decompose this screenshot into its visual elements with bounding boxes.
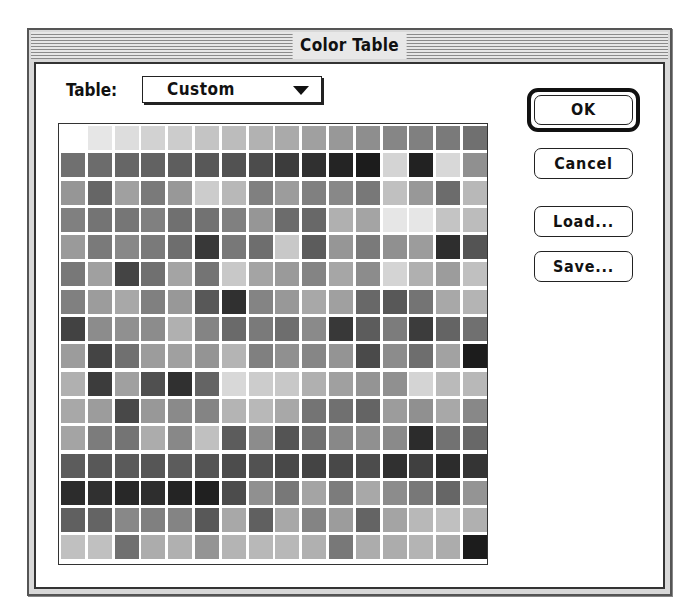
color-swatch[interactable]: [168, 372, 192, 396]
color-swatch[interactable]: [88, 481, 112, 505]
color-swatch[interactable]: [383, 454, 407, 478]
color-swatch[interactable]: [61, 372, 85, 396]
color-swatch[interactable]: [383, 153, 407, 177]
color-swatch[interactable]: [302, 208, 326, 232]
color-swatch[interactable]: [61, 399, 85, 423]
color-swatch[interactable]: [222, 399, 246, 423]
color-swatch[interactable]: [275, 153, 299, 177]
color-swatch[interactable]: [436, 481, 460, 505]
color-swatch[interactable]: [61, 317, 85, 341]
color-swatch[interactable]: [329, 372, 353, 396]
color-swatch[interactable]: [88, 153, 112, 177]
color-swatch[interactable]: [88, 235, 112, 259]
color-swatch[interactable]: [249, 126, 273, 150]
color-swatch[interactable]: [463, 317, 487, 341]
color-swatch[interactable]: [329, 426, 353, 450]
color-swatch[interactable]: [356, 126, 380, 150]
color-swatch[interactable]: [141, 126, 165, 150]
color-swatch[interactable]: [115, 208, 139, 232]
color-swatch[interactable]: [88, 262, 112, 286]
color-swatch[interactable]: [222, 454, 246, 478]
color-swatch[interactable]: [168, 508, 192, 532]
color-swatch[interactable]: [436, 208, 460, 232]
color-swatch[interactable]: [61, 181, 85, 205]
color-swatch[interactable]: [409, 126, 433, 150]
color-swatch[interactable]: [436, 508, 460, 532]
color-swatch[interactable]: [141, 344, 165, 368]
color-swatch[interactable]: [409, 262, 433, 286]
color-swatch[interactable]: [383, 399, 407, 423]
color-swatch[interactable]: [168, 399, 192, 423]
color-swatch[interactable]: [356, 317, 380, 341]
color-swatch[interactable]: [275, 262, 299, 286]
color-swatch[interactable]: [195, 344, 219, 368]
color-swatch[interactable]: [168, 126, 192, 150]
color-swatch[interactable]: [329, 399, 353, 423]
color-swatch[interactable]: [383, 290, 407, 314]
color-swatch[interactable]: [141, 481, 165, 505]
color-swatch[interactable]: [383, 426, 407, 450]
color-swatch[interactable]: [141, 426, 165, 450]
color-swatch[interactable]: [168, 344, 192, 368]
color-swatch[interactable]: [195, 181, 219, 205]
color-swatch[interactable]: [61, 235, 85, 259]
color-swatch[interactable]: [115, 290, 139, 314]
color-swatch[interactable]: [61, 126, 85, 150]
color-swatch[interactable]: [195, 481, 219, 505]
color-swatch[interactable]: [409, 508, 433, 532]
color-swatch[interactable]: [409, 481, 433, 505]
color-swatch[interactable]: [329, 208, 353, 232]
color-swatch[interactable]: [222, 426, 246, 450]
color-swatch[interactable]: [383, 535, 407, 559]
color-swatch[interactable]: [168, 454, 192, 478]
color-swatch[interactable]: [329, 126, 353, 150]
color-swatch[interactable]: [115, 344, 139, 368]
color-swatch[interactable]: [275, 126, 299, 150]
color-swatch[interactable]: [61, 481, 85, 505]
color-swatch[interactable]: [195, 317, 219, 341]
color-swatch[interactable]: [115, 399, 139, 423]
color-swatch[interactable]: [195, 508, 219, 532]
color-swatch[interactable]: [302, 535, 326, 559]
color-swatch[interactable]: [275, 208, 299, 232]
color-swatch[interactable]: [463, 290, 487, 314]
color-swatch[interactable]: [436, 535, 460, 559]
color-swatch[interactable]: [383, 126, 407, 150]
color-swatch[interactable]: [463, 535, 487, 559]
color-swatch[interactable]: [383, 317, 407, 341]
color-swatch[interactable]: [275, 290, 299, 314]
color-swatch[interactable]: [383, 344, 407, 368]
color-swatch[interactable]: [195, 454, 219, 478]
color-swatch[interactable]: [115, 454, 139, 478]
color-swatch[interactable]: [275, 344, 299, 368]
color-swatch[interactable]: [195, 208, 219, 232]
color-swatch[interactable]: [409, 535, 433, 559]
color-swatch[interactable]: [329, 181, 353, 205]
color-swatch[interactable]: [168, 535, 192, 559]
color-swatch[interactable]: [436, 235, 460, 259]
color-swatch[interactable]: [302, 372, 326, 396]
color-swatch[interactable]: [249, 454, 273, 478]
color-swatch[interactable]: [61, 508, 85, 532]
color-swatch[interactable]: [463, 153, 487, 177]
color-swatch[interactable]: [222, 508, 246, 532]
color-swatch[interactable]: [356, 454, 380, 478]
color-swatch[interactable]: [302, 344, 326, 368]
color-swatch[interactable]: [275, 426, 299, 450]
color-swatch[interactable]: [356, 262, 380, 286]
color-swatch[interactable]: [222, 262, 246, 286]
color-swatch[interactable]: [249, 317, 273, 341]
color-swatch[interactable]: [436, 317, 460, 341]
color-swatch[interactable]: [249, 508, 273, 532]
color-swatch[interactable]: [329, 454, 353, 478]
color-swatch[interactable]: [195, 426, 219, 450]
color-swatch[interactable]: [436, 290, 460, 314]
color-swatch[interactable]: [168, 317, 192, 341]
color-swatch[interactable]: [409, 372, 433, 396]
color-swatch[interactable]: [463, 344, 487, 368]
color-swatch[interactable]: [249, 372, 273, 396]
color-swatch[interactable]: [329, 344, 353, 368]
color-swatch[interactable]: [436, 399, 460, 423]
color-swatch[interactable]: [329, 508, 353, 532]
color-swatch[interactable]: [88, 454, 112, 478]
